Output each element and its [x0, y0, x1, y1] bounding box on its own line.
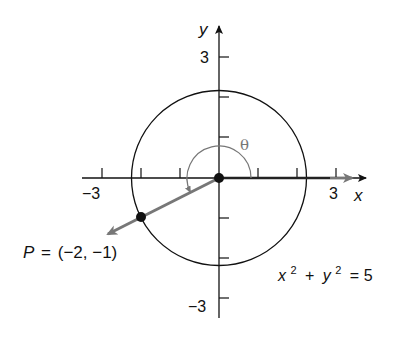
- point-name: P: [23, 243, 35, 262]
- eq-x: x: [277, 267, 287, 284]
- point-equals: =: [41, 243, 51, 262]
- origin-point: [214, 173, 224, 183]
- x-tick-label-min: −3: [82, 185, 100, 202]
- y-tick-label-min: −3: [188, 298, 206, 315]
- eq-x-sup: 2: [290, 264, 296, 276]
- point-p-label: P = (−2, −1): [23, 243, 117, 262]
- y-axis-label: y: [198, 20, 209, 39]
- point-p: [136, 212, 146, 222]
- eq-rhs: = 5: [350, 267, 373, 284]
- y-tick-label-max: 3: [200, 49, 209, 66]
- theta-label: θ: [240, 136, 249, 154]
- eq-y-sup: 2: [335, 264, 341, 276]
- eq-y: y: [322, 267, 332, 284]
- x-axis-label: x: [353, 186, 363, 205]
- circle-equation: x 2 + y 2 = 5: [277, 260, 373, 284]
- terminal-side-ray: [108, 178, 219, 234]
- unit-circle-diagram: y x 3 −3 −3 3 θ P = (−2, −1) x 2 + y 2 =…: [0, 0, 399, 340]
- point-coords: (−2, −1): [58, 243, 118, 262]
- eq-plus: +: [305, 267, 314, 284]
- x-tick-label-max: 3: [329, 185, 338, 202]
